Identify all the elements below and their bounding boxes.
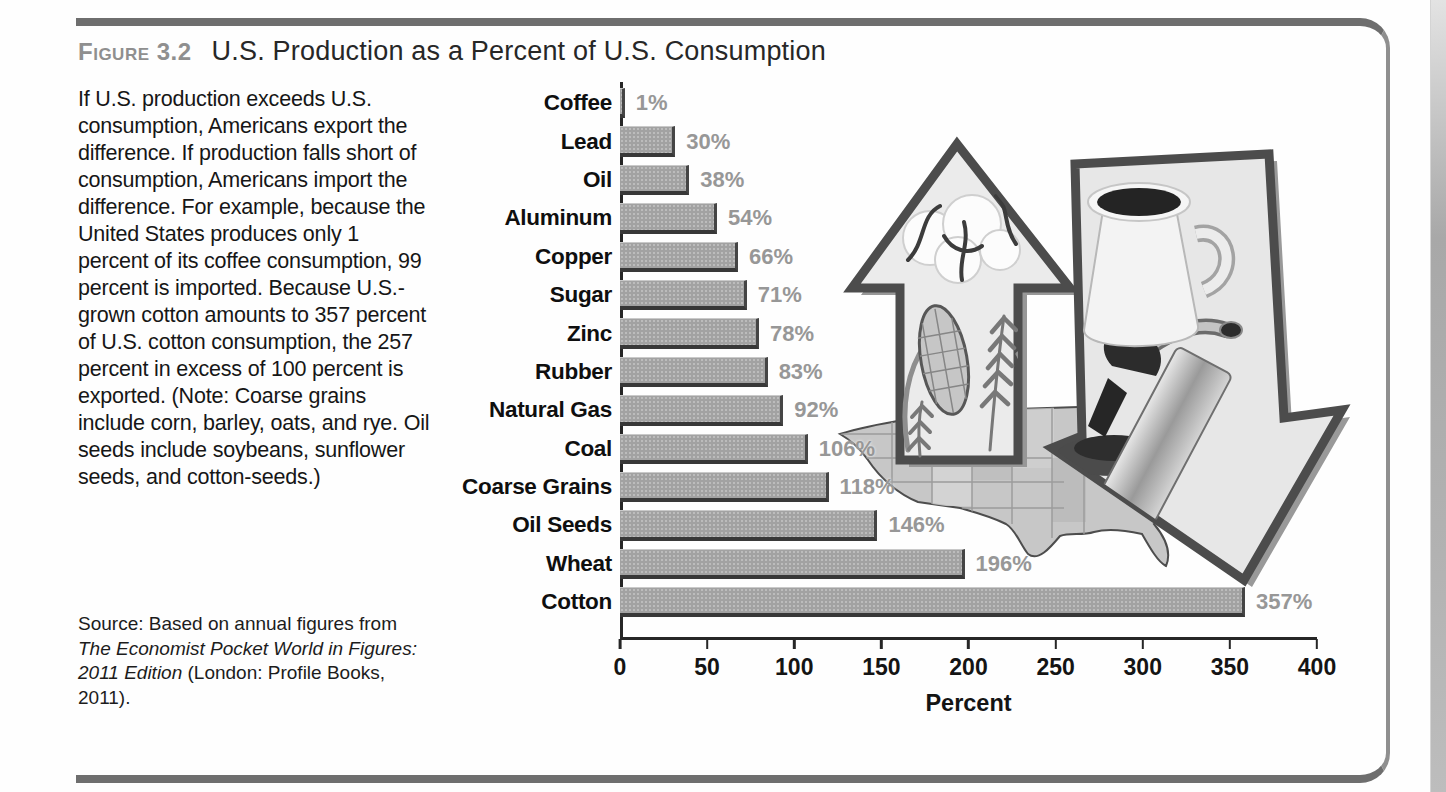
bar-category-label: Copper <box>428 244 620 270</box>
x-axis-tick-label: 300 <box>1124 654 1162 681</box>
bar <box>620 434 808 464</box>
bar-value-label: 118% <box>840 474 895 500</box>
bar-value-label: 66% <box>749 244 793 270</box>
bar-category-label: Sugar <box>428 282 620 308</box>
x-axis-tick-mark <box>1054 639 1057 649</box>
bar-value-label: 78% <box>770 321 814 347</box>
bar-category-label: Oil <box>428 167 620 193</box>
bar-track: 71% <box>620 276 1317 314</box>
bar-track: 30% <box>620 122 1317 160</box>
x-axis-tick: 200 <box>949 639 987 681</box>
bar-category-label: Coffee <box>428 90 620 116</box>
x-axis-tick: 350 <box>1211 639 1249 681</box>
bar-category-label: Cotton <box>428 589 620 615</box>
bar-row: Cotton 357% <box>428 583 1428 621</box>
x-axis-tick-mark <box>619 639 622 649</box>
x-axis-tick-label: 50 <box>694 654 720 681</box>
bar-track: 357% <box>620 583 1317 621</box>
bar-category-label: Lead <box>428 129 620 155</box>
bar-value-label: 54% <box>728 205 772 231</box>
bar-chart: Coffee 1% Lead 30% Oil 38% Aluminum <box>428 84 1428 717</box>
bar-track: 78% <box>620 314 1317 352</box>
x-axis-tick-label: 250 <box>1036 654 1074 681</box>
bar-value-label: 196% <box>976 551 1032 577</box>
bar <box>620 395 783 425</box>
figure-label: Figure 3.2 <box>78 38 192 65</box>
bar-value-label: 106% <box>819 436 875 462</box>
x-axis-tick: 0 <box>614 639 627 681</box>
x-axis-tick-mark <box>967 639 970 649</box>
bar <box>620 357 768 387</box>
bar <box>620 472 829 502</box>
x-axis-tick-label: 350 <box>1211 654 1249 681</box>
x-axis-tick-label: 400 <box>1298 654 1336 681</box>
bar-rows: Coffee 1% Lead 30% Oil 38% Aluminum <box>428 84 1428 621</box>
bar <box>620 510 877 540</box>
bar-row: Rubber 83% <box>428 353 1428 391</box>
bar-track: 92% <box>620 391 1317 429</box>
source-prefix: Source: Based on annual figures from <box>78 613 397 634</box>
x-axis-tick-label: 200 <box>949 654 987 681</box>
bar-category-label: Coal <box>428 436 620 462</box>
bar-row: Aluminum 54% <box>428 199 1428 237</box>
bar-category-label: Zinc <box>428 321 620 347</box>
textbook-figure-page: Figure 3.2U.S. Production as a Percent o… <box>0 0 1446 792</box>
x-axis-tick-mark <box>793 639 796 649</box>
figure-header: Figure 3.2U.S. Production as a Percent o… <box>78 36 826 67</box>
figure-title: U.S. Production as a Percent of U.S. Con… <box>212 36 826 66</box>
bar-value-label: 357% <box>1256 589 1312 615</box>
bar <box>620 318 759 348</box>
bar-row: Coal 106% <box>428 430 1428 468</box>
bar-track: 196% <box>620 545 1317 583</box>
bar-value-label: 92% <box>794 397 838 423</box>
x-axis-tick-mark <box>880 639 883 649</box>
bar-category-label: Coarse Grains <box>428 474 620 500</box>
bar-value-label: 83% <box>779 359 823 385</box>
source-note: Source: Based on annual figures from The… <box>78 612 422 710</box>
bar-value-label: 1% <box>636 90 668 116</box>
bar <box>620 242 738 272</box>
x-axis-tick-mark <box>1229 639 1232 649</box>
bar-row: Lead 30% <box>428 122 1428 160</box>
bar-value-label: 38% <box>700 167 744 193</box>
bar-row: Zinc 78% <box>428 314 1428 352</box>
bar <box>620 549 965 579</box>
x-axis: 050100150200250300350400 <box>620 637 1317 640</box>
bar <box>620 88 625 118</box>
bar-track: 66% <box>620 238 1317 276</box>
x-axis-tick: 400 <box>1298 639 1336 681</box>
x-axis-tick-mark <box>1142 639 1145 649</box>
x-axis-tick: 300 <box>1124 639 1162 681</box>
bar-row: Coffee 1% <box>428 84 1428 122</box>
bar-category-label: Oil Seeds <box>428 512 620 538</box>
x-axis-tick-label: 0 <box>614 654 627 681</box>
bar-row: Natural Gas 92% <box>428 391 1428 429</box>
x-axis-title: Percent <box>620 690 1317 717</box>
x-axis-tick-mark <box>1316 639 1319 649</box>
bar <box>620 587 1245 617</box>
bar <box>620 203 717 233</box>
bar-row: Oil Seeds 146% <box>428 506 1428 544</box>
bar-track: 83% <box>620 353 1317 391</box>
bar <box>620 126 675 156</box>
x-axis-tick-label: 150 <box>862 654 900 681</box>
bar-track: 118% <box>620 468 1317 506</box>
x-axis-tick: 250 <box>1036 639 1074 681</box>
bar-row: Wheat 196% <box>428 545 1428 583</box>
bar-track: 38% <box>620 161 1317 199</box>
bar-row: Copper 66% <box>428 238 1428 276</box>
bar-category-label: Aluminum <box>428 205 620 231</box>
bar-value-label: 71% <box>758 282 802 308</box>
bar <box>620 165 689 195</box>
bar-category-label: Wheat <box>428 551 620 577</box>
bar-row: Sugar 71% <box>428 276 1428 314</box>
x-axis-tick: 100 <box>775 639 813 681</box>
x-axis-tick: 150 <box>862 639 900 681</box>
bar-value-label: 30% <box>686 129 730 155</box>
x-axis-tick: 50 <box>694 639 720 681</box>
bar-track: 106% <box>620 430 1317 468</box>
bar-row: Coarse Grains 118% <box>428 468 1428 506</box>
bar-category-label: Natural Gas <box>428 397 620 423</box>
page-edge-shading <box>1430 0 1446 792</box>
bar-track: 146% <box>620 506 1317 544</box>
